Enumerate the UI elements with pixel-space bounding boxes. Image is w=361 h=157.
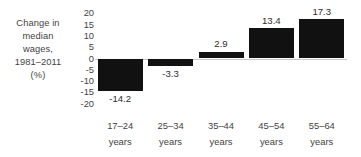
category-age-range: 45–54 [246,118,296,134]
category-age-range: 25–34 [145,118,195,134]
y-tick-label: 15 [72,20,94,30]
category-unit: years [196,134,246,150]
x-axis-category-label: 25–34years [145,118,195,150]
bar [199,52,244,59]
y-tick-label: 20 [72,8,94,18]
y-tick-label: -5 [72,65,94,75]
category-unit: years [246,134,296,150]
y-axis-title-line-1: Change in [2,17,74,30]
y-tick-label: -15 [72,87,94,97]
y-tick-label: -10 [72,76,94,86]
y-tick-label: 10 [72,31,94,41]
bar [249,28,294,58]
bar [299,19,344,58]
y-axis-title: Change in median wages, 1981–2011 (%) [2,17,74,82]
x-axis-category-label: 35–44years [196,118,246,150]
bar [148,59,193,66]
category-age-range: 55–64 [297,118,347,134]
y-axis-title-line-3: wages, [2,43,74,56]
x-axis-category-label: 55–64years [297,118,347,150]
bar-value-label: 13.4 [246,15,296,26]
y-tick-label: 0 [72,54,94,64]
bar [98,59,143,91]
bar-chart: Change in median wages, 1981–2011 (%) 20… [0,0,361,157]
bar-value-label: -3.3 [145,68,195,79]
category-unit: years [95,134,145,150]
bar-value-label: 2.9 [196,38,246,49]
category-unit: years [297,134,347,150]
category-age-range: 17–24 [95,118,145,134]
x-axis-category-label: 17–24years [95,118,145,150]
x-axis-category-label: 45–54years [246,118,296,150]
y-tick-label: 5 [72,42,94,52]
y-tick-label: -20 [72,99,94,109]
y-axis-ticks: 20151050-5-10-15-20 [72,0,94,157]
y-axis-title-line-2: median [2,30,74,43]
category-unit: years [145,134,195,150]
bar-value-label: -14.2 [95,93,145,104]
category-age-range: 35–44 [196,118,246,134]
y-axis-title-line-5: (%) [2,69,74,82]
y-axis-title-line-4: 1981–2011 [2,56,74,69]
bar-value-label: 17.3 [297,6,347,17]
x-axis-category-labels: 17–24years25–34years35–44years45–54years… [95,118,347,157]
